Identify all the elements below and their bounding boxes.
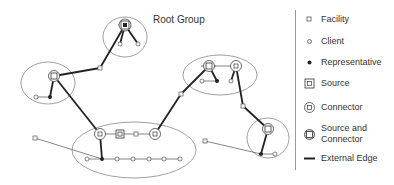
- legend-item-representative: Representative: [304, 57, 382, 68]
- node-client: [131, 157, 135, 161]
- node-client: [34, 95, 38, 99]
- group-left: [21, 62, 75, 104]
- source-icon: [304, 78, 315, 89]
- group-right: [183, 55, 257, 95]
- client-icon: [304, 36, 315, 47]
- connector-icon: [304, 102, 315, 113]
- network-diagram: [0, 0, 295, 185]
- legend-item-client: Client: [304, 36, 344, 47]
- legend: Facility Client Representative Source Co…: [295, 10, 394, 170]
- node-client: [162, 157, 166, 161]
- node-connector: [95, 129, 106, 140]
- node-source-and-connector: [263, 124, 274, 135]
- external-edge-icon: [304, 153, 315, 164]
- node-facility: [134, 132, 138, 136]
- legend-item-source: Source: [304, 78, 350, 89]
- legend-item-source-and-connector: Source and Connector: [304, 123, 367, 145]
- node-facility: [241, 104, 245, 108]
- node-client: [115, 157, 119, 161]
- node-facility: [203, 139, 207, 143]
- node-representative: [215, 79, 219, 83]
- node-source: [116, 130, 124, 138]
- node-client: [229, 79, 233, 83]
- node-client: [273, 152, 277, 156]
- node-connector: [231, 61, 242, 72]
- node-client: [147, 157, 151, 161]
- node-source-and-connector: [204, 61, 215, 72]
- root-group-label: Root Group: [153, 14, 205, 25]
- legend-item-external-edge: External Edge: [304, 153, 378, 164]
- node-facility: [33, 136, 37, 140]
- node-representative: [100, 157, 104, 161]
- legend-item-facility: Facility: [304, 14, 349, 25]
- node-source-and-connector: [119, 19, 131, 31]
- node-representative: [259, 152, 263, 156]
- node-client: [178, 157, 182, 161]
- node-facility: [179, 92, 183, 96]
- node-client: [200, 79, 204, 83]
- source-and-connector-icon: [304, 129, 315, 140]
- node-representative: [48, 95, 52, 99]
- node-client: [136, 42, 140, 46]
- node-client: [118, 42, 122, 46]
- node-client: [85, 157, 89, 161]
- node-facility: [98, 66, 102, 70]
- group-bottom: [72, 122, 196, 178]
- node-connector: [150, 129, 161, 140]
- representative-icon: [304, 57, 315, 68]
- legend-item-connector: Connector: [304, 102, 363, 113]
- node-source-and-connector: [49, 71, 60, 82]
- facility-icon: [304, 14, 315, 25]
